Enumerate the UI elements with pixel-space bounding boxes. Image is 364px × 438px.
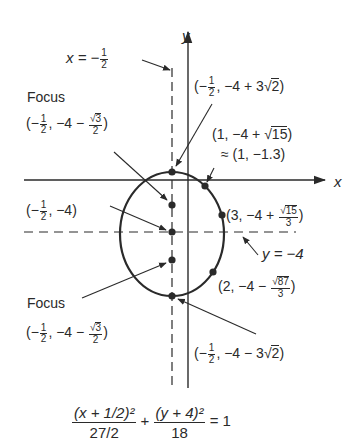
frac-den: 2 — [100, 60, 108, 71]
text: (− — [26, 115, 39, 131]
frac-num: 1 — [208, 343, 216, 355]
text: (2, −4 − — [218, 278, 270, 294]
label-lower-focus-title: Focus — [27, 296, 65, 310]
equation-rhs: = 1 — [210, 412, 231, 429]
frac-den: 2 — [40, 212, 48, 223]
text: (− — [26, 202, 39, 218]
term-2-denominator: 18 — [154, 423, 206, 438]
equation-term-2: (y + 4)²18 — [154, 404, 206, 438]
term-1-denominator: 27/2 — [72, 423, 136, 438]
sqrt-radicand: 3 — [95, 113, 102, 125]
x-axis-label: x — [334, 174, 342, 189]
y-axis-label: y — [182, 28, 190, 43]
label-lower-focus: (−12, −4 − √32) — [26, 322, 108, 345]
frac-den: 2 — [89, 126, 102, 137]
arrow-center — [110, 206, 166, 230]
ellipse-equation: (x + 1/2)²27/2 + (y + 4)²18 = 1 — [72, 404, 231, 438]
frac-den: 2 — [208, 88, 216, 99]
frac-num: 1 — [40, 200, 48, 212]
point-top-vertex — [168, 168, 175, 175]
frac-num: 1 — [208, 76, 216, 88]
eq-lhs: x = − — [66, 49, 99, 66]
frac-den: 2 — [89, 335, 102, 346]
text: ) — [279, 78, 284, 94]
sqrt-radicand: 15 — [285, 205, 297, 217]
text: ) — [287, 126, 292, 142]
frac-num: √87 — [271, 276, 290, 289]
text: ) — [299, 207, 304, 223]
text: ) — [279, 345, 284, 361]
text: (− — [26, 324, 39, 340]
sqrt-radicand: 3 — [95, 322, 102, 334]
sqrt-radicand: 15 — [271, 126, 288, 141]
text: ) — [291, 278, 296, 294]
label-bottom-vertex: (−12, −4 − 3√2) — [194, 343, 284, 365]
label-x-intercept: (1, −4 + √15) — [212, 126, 292, 141]
point-lower-focus — [168, 256, 175, 263]
point-bottom-vertex — [168, 292, 175, 299]
text: , −4 + 3 — [216, 78, 263, 94]
point-upper-focus — [168, 201, 175, 208]
text: ) — [103, 324, 108, 340]
text: , −4 − 3 — [216, 345, 263, 361]
equation-term-1: (x + 1/2)²27/2 — [72, 404, 136, 438]
frac-num: √15 — [279, 205, 298, 218]
text: (1, −4 + — [212, 126, 264, 142]
label-upper-focus-title: Focus — [27, 90, 65, 104]
frac-num: 1 — [100, 48, 108, 60]
text: ) — [103, 115, 108, 131]
point-center — [168, 228, 175, 235]
text: , −4 − — [48, 115, 88, 131]
sqrt-radicand: 87 — [277, 276, 289, 288]
point-lower-right — [209, 268, 216, 275]
text: (3, −4 + — [226, 207, 278, 223]
plus-sign: + — [141, 412, 150, 429]
arrow-x-neg-half — [142, 60, 170, 70]
label-center: (−12, −4) — [26, 200, 77, 222]
frac-num: √3 — [89, 322, 102, 335]
label-right-point: (3, −4 + √153) — [226, 205, 303, 228]
point-right — [218, 211, 225, 218]
frac-den: 2 — [40, 334, 48, 345]
arrow-upper-focus — [114, 152, 167, 200]
arrow-bottom-vertex — [178, 299, 256, 334]
frac-den: 2 — [208, 355, 216, 366]
label-lower-right-point: (2, −4 − √873) — [218, 276, 295, 299]
label-upper-focus: (−12, −4 − √32) — [26, 113, 108, 136]
text: , −4 − — [48, 324, 88, 340]
label-x-neg-half: x = −12 — [66, 48, 109, 70]
frac-den: 3 — [271, 289, 290, 300]
frac-num: √3 — [89, 113, 102, 126]
text: (− — [194, 345, 207, 361]
frac-den: 2 — [40, 125, 48, 136]
label-x-intercept-approx: ≈ (1, −1.3) — [221, 147, 285, 161]
text: , −4) — [48, 202, 76, 218]
frac-den: 3 — [279, 218, 298, 229]
arrow-y-neg-4 — [243, 237, 258, 255]
arrow-top-vertex — [176, 104, 212, 166]
term-1-numerator: (x + 1/2)² — [72, 404, 136, 423]
label-top-vertex: (−12, −4 + 3√2) — [194, 76, 284, 98]
text: (− — [194, 78, 207, 94]
label-y-neg-4: y = −4 — [262, 246, 304, 261]
term-2-numerator: (y + 4)² — [154, 404, 206, 423]
point-x-intercept — [201, 182, 208, 189]
